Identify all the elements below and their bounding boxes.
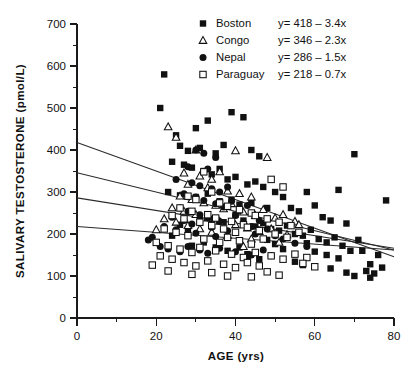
data-point-open-triangle [160, 215, 168, 222]
data-point-open-triangle [279, 211, 287, 218]
data-point-filled-square [351, 151, 357, 157]
data-point-filled-square [327, 265, 333, 271]
data-point-filled-circle [260, 246, 267, 253]
y-tick-label: 100 [47, 270, 66, 282]
data-point-open-square [256, 227, 262, 233]
data-point-filled-circle [196, 211, 203, 218]
data-point-filled-circle [204, 250, 211, 257]
data-point-filled-square [165, 189, 171, 195]
legend-label: Paraguay [216, 68, 265, 80]
data-point-filled-square [193, 125, 199, 131]
data-point-markers [145, 71, 389, 281]
data-point-filled-square [272, 189, 278, 195]
x-tick-label: 20 [150, 330, 163, 342]
data-point-filled-square [331, 234, 337, 240]
data-point-open-square [205, 211, 211, 217]
data-point-filled-circle [224, 183, 231, 190]
data-point-open-square [244, 224, 250, 230]
data-point-filled-square [205, 117, 211, 123]
data-point-open-triangle [164, 123, 172, 130]
data-point-open-square [173, 229, 179, 235]
data-point-open-triangle [236, 190, 244, 197]
data-point-open-square [216, 200, 222, 206]
data-point-filled-square [316, 236, 322, 242]
data-point-filled-circle [200, 150, 207, 157]
data-point-open-triangle [168, 204, 176, 211]
data-point-filled-square [224, 176, 230, 182]
data-point-open-square [256, 263, 262, 269]
data-point-open-square [272, 231, 278, 237]
legend-equation: y= 346 – 2.3x [278, 34, 346, 46]
regression-lines [77, 142, 394, 256]
data-point-filled-square [256, 153, 262, 159]
legend-label: Nepal [216, 51, 246, 63]
data-point-filled-square [379, 264, 385, 270]
data-point-filled-square [343, 220, 349, 226]
data-point-filled-circle [196, 182, 203, 189]
data-point-open-square [212, 215, 218, 221]
data-point-filled-square [244, 181, 250, 187]
data-point-open-square [300, 260, 306, 266]
data-point-open-square [252, 249, 258, 255]
data-point-open-square [248, 241, 254, 247]
data-point-filled-square [359, 248, 365, 254]
regression-line-boston [77, 142, 394, 256]
data-point-filled-square [335, 187, 341, 193]
data-point-open-square [216, 239, 222, 245]
data-point-open-square [189, 271, 195, 277]
data-point-filled-circle [291, 240, 298, 247]
data-point-open-square [165, 243, 171, 249]
data-point-open-square [185, 193, 191, 199]
scatter-plot-figure: SALIVARY TESTOSTERONE (pmol/L) AGE (yrs)… [0, 0, 413, 379]
data-point-filled-circle [173, 176, 180, 183]
y-axis-title: SALIVARY TESTOSTERONE (pmol/L) [14, 64, 26, 278]
data-point-open-square [181, 216, 187, 222]
data-point-open-square [201, 169, 207, 175]
data-point-open-square [181, 259, 187, 265]
data-point-filled-square [363, 268, 369, 274]
legend-marker-open-square [200, 71, 206, 77]
data-point-filled-square [220, 142, 226, 148]
data-point-filled-circle [192, 147, 199, 154]
data-point-filled-square [367, 274, 373, 280]
legend-marker-filled-square [200, 20, 206, 26]
legend: Bostony= 418 – 3.4xCongoy= 346 – 2.3xNep… [199, 17, 346, 80]
y-tick-label: 400 [47, 144, 66, 156]
data-point-filled-square [327, 217, 333, 223]
data-point-filled-circle [244, 202, 251, 209]
data-point-open-square [276, 272, 282, 278]
data-point-filled-square [347, 248, 353, 254]
data-point-filled-circle [192, 230, 199, 237]
data-point-open-square [312, 264, 318, 270]
legend-row-paraguay: Paraguayy= 218 – 0.7x [200, 68, 347, 80]
data-point-filled-square [248, 147, 254, 153]
legend-row-nepal: Nepaly= 286 – 1.5x [200, 51, 347, 63]
data-point-filled-circle [184, 163, 191, 170]
legend-equation: y= 418 – 3.4x [278, 17, 346, 29]
data-point-filled-square [185, 148, 191, 154]
data-point-open-square [201, 236, 207, 242]
data-point-filled-square [292, 259, 298, 265]
data-point-filled-square [308, 227, 314, 233]
data-point-filled-square [319, 214, 325, 220]
data-point-open-square [205, 258, 211, 264]
data-point-filled-circle [188, 179, 195, 186]
data-point-open-square [212, 248, 218, 254]
y-tick-label: 500 [47, 102, 66, 114]
x-axis-ticks: 020406080 [74, 318, 401, 342]
data-point-filled-square [161, 71, 167, 77]
data-point-open-triangle [152, 226, 160, 233]
data-point-filled-circle [145, 236, 152, 243]
data-point-open-triangle [263, 154, 271, 161]
data-point-open-square [268, 176, 274, 182]
data-point-open-triangle [248, 193, 256, 200]
y-tick-label: 700 [47, 18, 66, 30]
data-point-open-square [244, 259, 250, 265]
data-point-open-square [224, 203, 230, 209]
data-point-open-square [177, 246, 183, 252]
data-point-open-square [165, 268, 171, 274]
data-point-open-square [228, 218, 234, 224]
data-point-filled-square [169, 159, 175, 165]
legend-label: Congo [216, 34, 249, 46]
data-point-open-square [161, 226, 167, 232]
